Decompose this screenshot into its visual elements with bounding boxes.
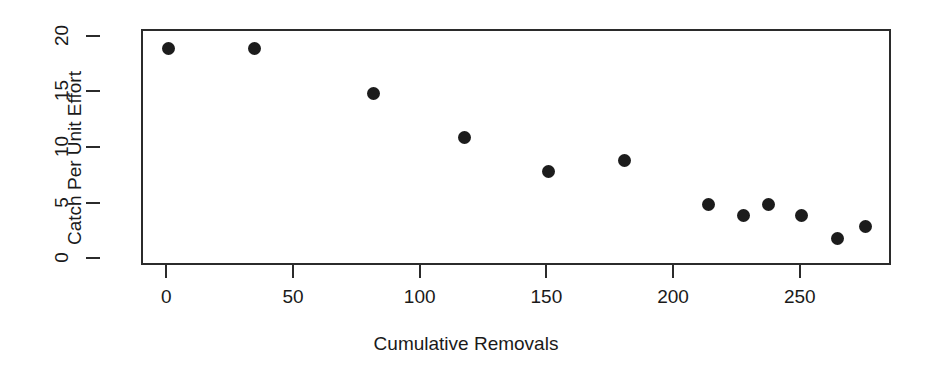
- y-tick-mark: [86, 146, 100, 148]
- data-point: [702, 198, 715, 211]
- y-tick-mark: [86, 35, 100, 37]
- x-tick-label: 250: [760, 286, 840, 307]
- y-tick-mark: [86, 257, 100, 259]
- data-points-layer: [143, 31, 889, 263]
- x-tick-label: 100: [380, 286, 460, 307]
- data-point: [618, 154, 631, 167]
- y-tick-mark: [86, 90, 100, 92]
- x-tick-label: 150: [506, 286, 586, 307]
- data-point: [859, 220, 872, 233]
- x-tick-mark: [799, 265, 801, 278]
- data-point: [248, 42, 261, 55]
- data-point: [737, 209, 750, 222]
- y-tick-mark: [86, 202, 100, 204]
- data-point: [542, 165, 555, 178]
- x-axis-title: Cumulative Removals: [0, 333, 932, 355]
- plot-area: [141, 29, 891, 265]
- x-tick-mark: [419, 265, 421, 278]
- data-point: [831, 232, 844, 245]
- data-point: [367, 87, 380, 100]
- x-tick-mark: [165, 265, 167, 278]
- data-point: [762, 198, 775, 211]
- x-tick-mark: [545, 265, 547, 278]
- scatter-chart-figure: 05101520 Catch Per Unit Effort 050100150…: [0, 0, 932, 383]
- x-tick-mark: [672, 265, 674, 278]
- x-axis: 050100150200250 Cumulative Removals: [0, 265, 932, 383]
- data-point: [795, 209, 808, 222]
- x-tick-label: 50: [253, 286, 333, 307]
- x-tick-mark: [292, 265, 294, 278]
- x-tick-label: 200: [633, 286, 713, 307]
- x-tick-label: 0: [126, 286, 206, 307]
- data-point: [162, 42, 175, 55]
- y-axis-title: Catch Per Unit Effort: [64, 38, 86, 278]
- data-point: [458, 131, 471, 144]
